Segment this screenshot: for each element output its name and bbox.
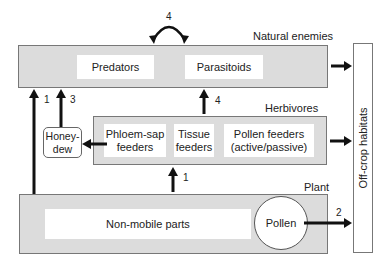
arrows-layer bbox=[0, 0, 389, 267]
label-plant-to-herbivores: 1 bbox=[183, 173, 189, 183]
arrow-herbivores-to-enemies-icon bbox=[199, 89, 209, 114]
arrow-enemies-to-offcrop-icon bbox=[331, 61, 352, 71]
label-pollen-to-offcrop: 2 bbox=[336, 208, 342, 218]
label-enemies-interaction: 4 bbox=[166, 12, 172, 22]
arrow-plant-to-herbivores-icon bbox=[168, 167, 178, 192]
arrow-herbivores-to-offcrop-icon bbox=[330, 136, 352, 146]
arrow-honeydew-to-enemies-icon bbox=[56, 89, 66, 127]
curved-double-arrow-icon bbox=[149, 27, 189, 44]
arrow-pollen-to-offcrop-icon bbox=[304, 218, 352, 228]
arrow-plant-to-enemies-icon bbox=[29, 89, 39, 194]
label-honeydew-to-enemies: 3 bbox=[70, 95, 76, 105]
label-plant-to-enemies: 1 bbox=[44, 95, 50, 105]
label-herbivores-to-enemies: 4 bbox=[215, 96, 221, 106]
arrow-phloem-to-honeydew-icon bbox=[82, 139, 107, 149]
